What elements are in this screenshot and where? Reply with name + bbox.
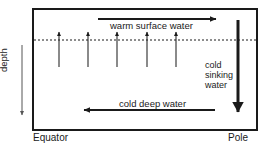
ocean-circulation-diagram: warm surface water cold deep water cold … [0, 0, 271, 153]
warm-surface-water-label: warm surface water [110, 21, 193, 31]
cold-sinking-water-line-1: cold [205, 60, 233, 70]
pole-label: Pole [228, 133, 248, 144]
cold-sinking-water-line-3: water [205, 80, 233, 90]
equator-label: Equator [33, 133, 68, 144]
cold-deep-water-label: cold deep water [119, 99, 186, 109]
cold-sinking-water-label: cold sinking water [205, 60, 233, 90]
depth-axis-label: depth [0, 48, 9, 72]
cold-sinking-water-line-2: sinking [205, 70, 233, 80]
upwelling-arrow-group [59, 32, 176, 67]
